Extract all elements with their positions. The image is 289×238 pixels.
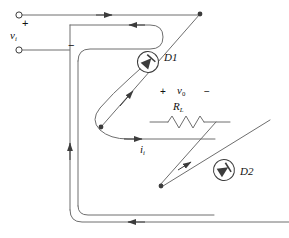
junction-bottom-right bbox=[159, 184, 164, 189]
output-minus-label: − bbox=[204, 87, 210, 97]
diode-1-label: D1 bbox=[164, 52, 177, 63]
junction-middle-left bbox=[99, 125, 104, 130]
input-terminal-bottom bbox=[16, 47, 22, 53]
wire-diagonal-left-lower bbox=[160, 122, 216, 185]
diode-d2 bbox=[210, 156, 239, 185]
arrow-d1-diagonal bbox=[120, 91, 133, 106]
diode-d1 bbox=[133, 47, 163, 77]
input-minus-label: − bbox=[68, 40, 74, 51]
wire-bottom-outer bbox=[70, 210, 289, 222]
circuit-schematic-canvas bbox=[0, 0, 289, 238]
wire-middle-uturn bbox=[95, 60, 215, 139]
wire-bottom-inner bbox=[78, 206, 214, 215]
junction-dots bbox=[99, 12, 203, 189]
output-plus-label: + bbox=[160, 87, 166, 97]
diode-2-label: D2 bbox=[240, 166, 253, 177]
resistor-zigzag bbox=[168, 116, 204, 128]
load-resistor-label: RL bbox=[173, 101, 184, 114]
input-plus-label: + bbox=[22, 18, 28, 29]
output-voltage-label: v0 bbox=[177, 85, 185, 97]
input-current-label: ii bbox=[140, 144, 145, 157]
input-voltage-label: vi bbox=[10, 30, 17, 43]
junction-top-right bbox=[198, 12, 203, 17]
circuit-diagram: + vi − + v0 − RL ii D1 D2 bbox=[0, 0, 289, 238]
